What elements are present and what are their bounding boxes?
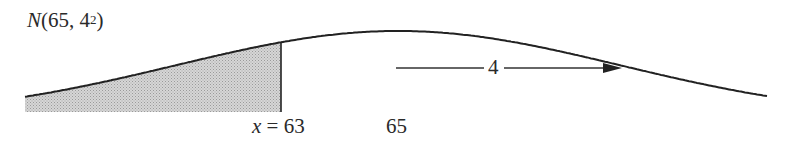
shaded-area bbox=[25, 42, 281, 112]
mean-label: 65 bbox=[386, 116, 407, 137]
sd-label: 4 bbox=[486, 57, 501, 78]
title-n: N bbox=[27, 8, 41, 32]
title-exponent: 2 bbox=[90, 12, 97, 27]
x-variable: x bbox=[252, 114, 261, 138]
title-params: (65, 4 bbox=[41, 8, 90, 32]
distribution-title: N(65, 42) bbox=[27, 10, 104, 31]
title-close: ) bbox=[97, 8, 104, 32]
normal-distribution-diagram: N(65, 42) x = 63 65 4 bbox=[0, 0, 795, 141]
x-equals-value: = 63 bbox=[261, 114, 304, 138]
x-value-label: x = 63 bbox=[252, 116, 305, 137]
